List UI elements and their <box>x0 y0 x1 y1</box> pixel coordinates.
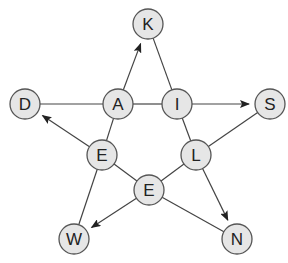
node-label: E <box>96 146 107 165</box>
node-d: D <box>10 89 40 119</box>
edge-e2-n <box>162 197 224 231</box>
star-diagram: KDAISELEWN <box>0 0 288 263</box>
edge-a-k-arrow <box>123 44 140 90</box>
node-label: S <box>264 95 275 114</box>
node-label: L <box>191 146 200 165</box>
edge-k-i <box>153 38 172 90</box>
edge-e1-d-arrow <box>43 116 90 147</box>
edge-s-l <box>208 113 257 147</box>
edge-l-e2 <box>161 164 184 181</box>
edge-e1-w <box>79 169 98 225</box>
node-s: S <box>255 89 285 119</box>
node-l: L <box>181 140 211 170</box>
node-label: A <box>112 95 124 114</box>
edge-e2-w-arrow <box>92 198 137 227</box>
edge-l-n-arrow <box>203 168 228 220</box>
node-k: K <box>133 9 163 39</box>
node-e1: E <box>87 140 117 170</box>
nodes-layer: KDAISELEWN <box>10 9 285 254</box>
node-w: W <box>59 224 89 254</box>
node-e2: E <box>134 175 164 205</box>
node-label: I <box>175 95 180 114</box>
edge-e1-e2 <box>114 164 137 181</box>
node-label: W <box>66 230 82 249</box>
diagram-canvas: KDAISELEWN <box>0 0 288 263</box>
node-label: N <box>231 230 243 249</box>
edge-i-l <box>182 118 191 141</box>
node-label: E <box>143 181 154 200</box>
node-label: D <box>19 95 31 114</box>
node-label: K <box>142 15 154 34</box>
node-i: I <box>162 89 192 119</box>
edge-a-e1 <box>106 118 113 140</box>
node-n: N <box>222 224 252 254</box>
node-a: A <box>103 89 133 119</box>
